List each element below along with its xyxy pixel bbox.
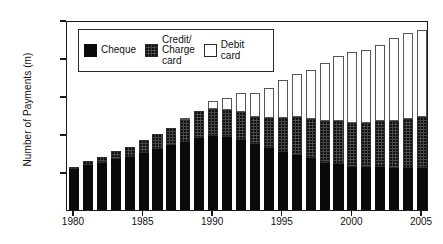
- bar-segment-cheque: [97, 163, 107, 211]
- x-axis-tick-mark: [142, 211, 143, 216]
- bar-segment-credit-charge-card: [278, 118, 288, 152]
- bar: [403, 33, 413, 210]
- legend-item: Cheque: [84, 44, 136, 57]
- bar-segment-debit-card: [180, 118, 190, 120]
- bar-segment-credit-charge-card: [166, 128, 176, 146]
- bar-segment-cheque: [250, 144, 260, 210]
- bar-segment-credit-charge-card: [264, 118, 274, 148]
- bar-segment-cheque: [111, 159, 121, 210]
- bar: [361, 50, 371, 210]
- y-axis-title: Number of Payments (m): [22, 25, 33, 195]
- bar-segment-credit-charge-card: [69, 167, 79, 169]
- bar-segment-cheque: [375, 167, 385, 210]
- bar-segment-credit-charge-card: [306, 119, 316, 158]
- bar: [69, 167, 79, 210]
- bar-segment-credit-charge-card: [250, 117, 260, 144]
- bar-segment-credit-charge-card: [97, 157, 107, 163]
- x-axis-tick-label: 1990: [190, 216, 234, 227]
- bar-segment-credit-charge-card: [375, 121, 385, 167]
- bar: [166, 128, 176, 210]
- x-axis-tick-label: 2000: [329, 216, 373, 227]
- bar: [306, 70, 316, 210]
- bar-segment-cheque: [264, 148, 274, 210]
- x-axis-tick-label: 1980: [51, 216, 95, 227]
- bar: [333, 56, 343, 210]
- bar-segment-debit-card: [403, 33, 413, 119]
- bar-segment-debit-card: [292, 74, 302, 117]
- bar: [292, 74, 302, 210]
- bar: [97, 157, 107, 210]
- bar: [180, 119, 190, 210]
- bar: [139, 140, 149, 210]
- bar-segment-credit-charge-card: [139, 140, 149, 153]
- debit-card-swatch-icon: [204, 44, 217, 57]
- bar-segment-credit-charge-card: [125, 147, 135, 157]
- bar-segment-credit-charge-card: [417, 117, 427, 168]
- bar: [208, 101, 218, 210]
- bar: [236, 93, 246, 210]
- bar-segment-debit-card: [375, 45, 385, 121]
- bar: [111, 151, 121, 210]
- bar-segment-debit-card: [236, 93, 246, 112]
- bar: [375, 45, 385, 210]
- x-axis-tick-mark: [72, 211, 73, 216]
- x-axis-tick-mark: [281, 211, 282, 216]
- bar-segment-credit-charge-card: [236, 112, 246, 140]
- bar: [320, 63, 330, 210]
- bar-segment-debit-card: [278, 80, 288, 118]
- bar-segment-debit-card: [389, 38, 399, 120]
- x-axis-tick-label: 1995: [260, 216, 304, 227]
- cheque-swatch-icon: [84, 44, 97, 57]
- bar-segment-cheque: [236, 140, 246, 210]
- bar-segment-debit-card: [222, 98, 232, 111]
- bar: [83, 161, 93, 210]
- bar-segment-cheque: [292, 155, 302, 210]
- bar-segment-cheque: [403, 168, 413, 210]
- bar-segment-credit-charge-card: [194, 111, 204, 138]
- bar-segment-cheque: [347, 167, 357, 210]
- bar: [125, 147, 135, 210]
- bar-segment-cheque: [166, 145, 176, 210]
- bar-segment-cheque: [180, 142, 190, 210]
- bar-segment-cheque: [333, 164, 343, 210]
- bar-segment-debit-card: [417, 30, 427, 117]
- bar-segment-debit-card: [347, 52, 357, 123]
- bar-segment-debit-card: [250, 93, 260, 117]
- bar-segment-debit-card: [361, 50, 371, 123]
- bar-segment-credit-charge-card: [292, 117, 302, 155]
- legend-item-label: Credit/ Charge card: [162, 35, 195, 67]
- credit-card-swatch-icon: [145, 44, 158, 57]
- bar-segment-cheque: [361, 167, 371, 210]
- bar: [152, 134, 162, 210]
- x-axis-tick-label: 2005: [399, 216, 443, 227]
- bar: [417, 30, 427, 211]
- bar-segment-cheque: [278, 152, 288, 210]
- bar-segment-cheque: [125, 157, 135, 210]
- legend-item-label: Debit card: [221, 40, 244, 61]
- legend-item: Credit/ Charge card: [145, 35, 195, 67]
- bar-segment-cheque: [306, 158, 316, 210]
- bar-segment-credit-charge-card: [403, 119, 413, 168]
- bar-segment-credit-charge-card: [347, 123, 357, 167]
- bar-segment-debit-card: [333, 56, 343, 121]
- bar-segment-cheque: [208, 136, 218, 210]
- legend-item: Debit card: [204, 40, 244, 61]
- x-axis-tick-mark: [420, 211, 421, 216]
- bar: [222, 98, 232, 210]
- x-axis-tick-label: 1985: [121, 216, 165, 227]
- bar: [194, 111, 204, 210]
- chart-legend: ChequeCredit/ Charge cardDebit card: [78, 29, 274, 72]
- bar-segment-cheque: [222, 137, 232, 210]
- bar-segment-credit-charge-card: [389, 121, 399, 168]
- bar-segment-credit-charge-card: [180, 120, 190, 143]
- stacked-bar-chart-figure: Number of Payments (m) 10002000300040005…: [0, 0, 443, 244]
- bar-segment-credit-charge-card: [333, 121, 343, 164]
- bar-segment-credit-charge-card: [222, 110, 232, 137]
- bar-segment-cheque: [389, 168, 399, 210]
- bar-segment-cheque: [194, 138, 204, 210]
- x-axis-tick-mark: [211, 211, 212, 216]
- bar-segment-cheque: [320, 163, 330, 211]
- bar-segment-cheque: [417, 168, 427, 210]
- bar-segment-debit-card: [264, 88, 274, 118]
- legend-item-label: Cheque: [101, 45, 136, 56]
